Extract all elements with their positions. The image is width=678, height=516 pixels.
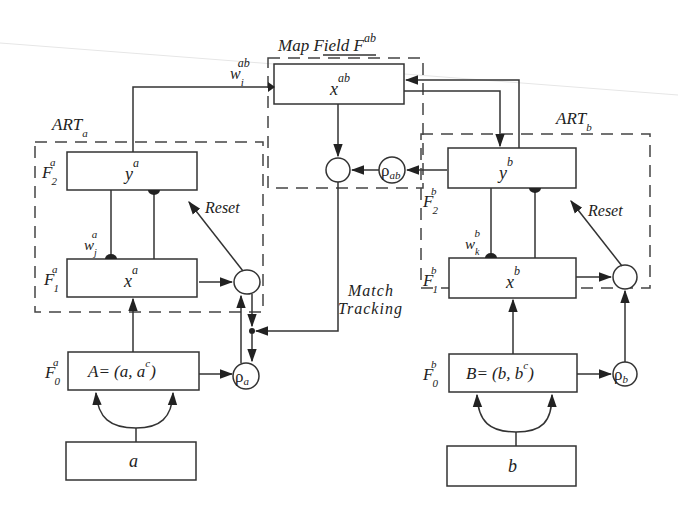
art-a-reset-label: Reset (204, 199, 240, 216)
art-b-f0-label: F0b (422, 358, 438, 389)
match-tracking-label-1: Match (347, 282, 394, 299)
art-b-reset-label: Reset (587, 202, 623, 219)
match-tracking-label-2: Tracking (338, 300, 403, 318)
input-b-to-bc-arrow (516, 395, 552, 432)
art-b-title: ARTb (555, 109, 592, 133)
map-field-to-yb-arrow (404, 91, 500, 146)
map-field-match-node[interactable] (326, 158, 350, 182)
input-b-to-b-arrow (477, 395, 516, 432)
art-a-weight-synapse (105, 254, 117, 259)
input-a-to-a-arrow (96, 393, 136, 428)
art-a-topdown-synapse (148, 190, 160, 195)
art-a-f1-label: F1a (43, 263, 59, 294)
artmap-diagram: Map Field Fab xab wiab ρab ARTa F2a (0, 0, 678, 516)
art-a-group: ARTa F2a ya F1a xa F0a A= (a, ac) a (35, 82, 275, 480)
art-a-f0-label: F0a (44, 356, 60, 387)
input-a-to-ac-arrow (136, 393, 173, 428)
art-b-reset-node[interactable] (613, 265, 637, 289)
art-a-f2-label: F2a (41, 156, 57, 187)
art-b-weight-synapse (485, 253, 497, 258)
art-a-reset-node[interactable] (234, 270, 260, 294)
art-a-title: ARTa (51, 115, 88, 139)
art-a-input-label: a (129, 451, 138, 471)
art-b-group: ARTb F2b yb F1b xb F0b B= (b, bc) b (404, 80, 650, 486)
art-b-weight-label: wkb (465, 227, 480, 257)
map-field-title: Map Field Fab (277, 31, 376, 55)
art-b-f2-label: F2b (422, 185, 438, 216)
art-a-weight-label: wja (84, 228, 98, 258)
art-b-f1-label: F1b (422, 264, 438, 295)
match-tracking-arrow (256, 182, 338, 331)
art-b-input-label: b (508, 456, 517, 476)
match-tracking-group: Match Tracking (256, 182, 403, 331)
art-b-topdown-synapse (529, 188, 541, 193)
